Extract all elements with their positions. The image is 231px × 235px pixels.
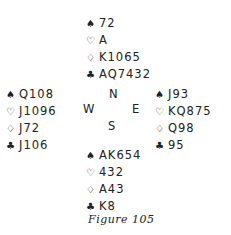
north-hearts-cards: A (99, 33, 108, 47)
south-hearts-cards: 432 (99, 165, 124, 179)
north-hearts: ♡A (86, 32, 151, 49)
south-hearts: ♡432 (86, 164, 141, 181)
compass-north: N (109, 87, 118, 101)
compass-east: E (132, 102, 139, 116)
east-spades: ♠J93 (155, 86, 212, 103)
north-spades-cards: 72 (99, 16, 116, 30)
east-hand: ♠J93 ♡KQ875 ♢Q98 ♣95 (155, 86, 212, 154)
east-clubs: ♣95 (155, 137, 212, 154)
west-hearts: ♡J1096 (6, 103, 57, 120)
south-diamonds: ♢A43 (86, 181, 141, 198)
west-clubs: ♣J106 (6, 137, 57, 154)
west-spades: ♠Q108 (6, 86, 57, 103)
south-clubs-cards: K8 (99, 199, 116, 213)
south-spades-cards: AK654 (99, 148, 141, 162)
compass-south: S (108, 119, 115, 133)
east-hearts-cards: KQ875 (168, 104, 212, 118)
diamond-icon: ♢ (155, 120, 168, 137)
diamond-icon: ♢ (86, 49, 99, 66)
west-clubs-cards: J106 (19, 138, 48, 152)
west-hearts-cards: J1096 (19, 104, 57, 118)
west-diamonds-cards: J72 (19, 121, 40, 135)
heart-icon: ♡ (86, 164, 99, 181)
north-diamonds-cards: K1065 (99, 50, 141, 64)
club-icon: ♣ (86, 66, 99, 83)
north-clubs-cards: AQ7432 (99, 67, 151, 81)
east-clubs-cards: 95 (168, 138, 185, 152)
north-hand: ♠72 ♡A ♢K1065 ♣AQ7432 (86, 15, 151, 83)
spade-icon: ♠ (86, 147, 99, 164)
north-spades: ♠72 (86, 15, 151, 32)
club-icon: ♣ (155, 137, 168, 154)
heart-icon: ♡ (86, 32, 99, 49)
figure-caption: Figure 105 (88, 213, 155, 226)
east-spades-cards: J93 (168, 87, 189, 101)
spade-icon: ♠ (86, 15, 99, 32)
spade-icon: ♠ (6, 86, 19, 103)
west-diamonds: ♢J72 (6, 120, 57, 137)
south-hand: ♠AK654 ♡432 ♢A43 ♣K8 (86, 147, 141, 215)
south-diamonds-cards: A43 (99, 182, 125, 196)
east-diamonds-cards: Q98 (168, 121, 195, 135)
north-clubs: ♣AQ7432 (86, 66, 151, 83)
west-spades-cards: Q108 (19, 87, 54, 101)
compass-west: W (83, 102, 94, 116)
east-diamonds: ♢Q98 (155, 120, 212, 137)
diamond-icon: ♢ (6, 120, 19, 137)
heart-icon: ♡ (6, 103, 19, 120)
west-hand: ♠Q108 ♡J1096 ♢J72 ♣J106 (6, 86, 57, 154)
south-spades: ♠AK654 (86, 147, 141, 164)
heart-icon: ♡ (155, 103, 168, 120)
club-icon: ♣ (6, 137, 19, 154)
diamond-icon: ♢ (86, 181, 99, 198)
north-diamonds: ♢K1065 (86, 49, 151, 66)
east-hearts: ♡KQ875 (155, 103, 212, 120)
spade-icon: ♠ (155, 86, 168, 103)
